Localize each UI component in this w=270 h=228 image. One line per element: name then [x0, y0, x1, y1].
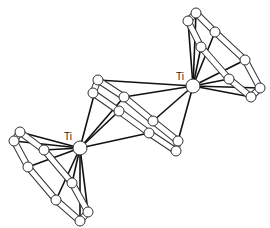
ring-bond: [44, 150, 72, 183]
carbon-atom: [75, 216, 85, 226]
ring-bond: [215, 32, 245, 60]
carbon-atom: [9, 136, 19, 146]
carbon-atom: [51, 195, 61, 205]
ligand-rings: [9, 8, 265, 226]
carbon-atom: [93, 75, 103, 85]
carbon-atom: [240, 55, 250, 65]
carbon-atom: [83, 207, 93, 217]
carbon-atom: [15, 127, 25, 137]
metal-bridge-bond: [80, 111, 119, 148]
ring-bond: [28, 167, 56, 200]
carbon-atom: [210, 27, 220, 37]
carbon-atom: [255, 83, 265, 93]
titanium-complex-diagram: Ti Ti: [0, 0, 270, 228]
carbon-atom: [119, 92, 129, 102]
carbon-atom: [171, 146, 181, 156]
metal-bridge-bond: [178, 86, 193, 141]
ti-label-upper: Ti: [176, 71, 184, 82]
carbon-atom: [191, 8, 201, 18]
carbon-atom: [246, 92, 256, 102]
titanium-atom: [73, 141, 87, 155]
carbon-atom: [144, 128, 154, 138]
titanium-atom: [186, 79, 200, 93]
carbon-atom: [196, 42, 206, 52]
carbon-atom: [23, 162, 33, 172]
carbon-atom: [88, 88, 98, 98]
carbon-atom: [67, 178, 77, 188]
carbon-atom: [224, 74, 234, 84]
carbon-atom: [114, 106, 124, 116]
ti-label-lower: Ti: [64, 131, 72, 142]
carbon-atom: [148, 116, 158, 126]
carbon-atom: [173, 136, 183, 146]
carbon-atom: [183, 16, 193, 26]
carbon-atom: [39, 145, 49, 155]
